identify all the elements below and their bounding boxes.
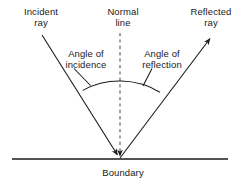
label-incident-ray: Incident ray <box>10 6 72 28</box>
reflection-diagram: Incident ray Normal line Reflected ray A… <box>0 0 248 186</box>
incidence-leader-line <box>74 69 91 86</box>
reflection-leader-line <box>143 69 152 87</box>
label-boundary: Boundary <box>86 167 160 178</box>
label-reflected-ray: Reflected ray <box>178 6 244 28</box>
label-angle-of-reflection: Angle of reflection <box>128 48 196 70</box>
label-normal-line: Normal line <box>88 6 158 28</box>
label-angle-of-incidence: Angle of incidence <box>55 48 117 70</box>
angle-arc <box>83 81 160 92</box>
